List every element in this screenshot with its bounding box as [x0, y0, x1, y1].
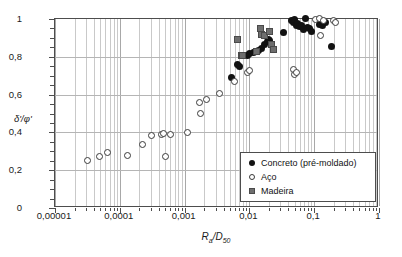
- y-axis-tick: [50, 85, 55, 86]
- y-axis-tick: [50, 114, 55, 115]
- gridline-vertical: [94, 19, 95, 206]
- x-axis-tick: [230, 208, 231, 211]
- y-axis-tick-label: 0,6: [9, 88, 22, 99]
- gridline-vertical: [110, 19, 111, 206]
- legend-item-label: Aço: [261, 172, 277, 182]
- x-axis-tick-label: 0,00001: [37, 210, 71, 221]
- gridline-vertical: [117, 19, 118, 206]
- x-axis-tick: [373, 208, 374, 211]
- legend-item-label: Concreto (pré-moldado): [261, 158, 357, 168]
- data-point: [162, 153, 169, 160]
- y-axis-title: δ'/φ': [14, 113, 32, 124]
- x-axis-tick: [353, 208, 354, 211]
- y-axis-tick: [50, 104, 55, 105]
- legend-marker-icon: [246, 160, 257, 166]
- data-point: [203, 96, 210, 103]
- gridline-vertical: [100, 19, 101, 206]
- x-axis-tick: [224, 208, 225, 211]
- gridline-vertical: [86, 19, 87, 206]
- gridline-vertical: [170, 19, 171, 206]
- x-axis-tick-label: 0,01: [239, 210, 258, 221]
- data-point: [293, 69, 300, 76]
- x-axis-tick: [280, 208, 281, 211]
- legend-item-1: Concreto (pré-moldado): [246, 156, 371, 170]
- y-axis-tick: [50, 161, 55, 162]
- gridline-vertical: [151, 19, 152, 206]
- y-axis-tick-label: 0,4: [9, 126, 22, 137]
- gridline-vertical: [175, 19, 176, 206]
- chart-legend: Concreto (pré-moldado)AçoMadeira: [240, 152, 376, 202]
- y-axis-tick: [50, 76, 55, 77]
- x-axis-tick: [304, 208, 305, 211]
- legend-marker-icon: [246, 174, 257, 180]
- x-axis-tick: [369, 208, 370, 211]
- gridline-horizontal: [55, 57, 377, 58]
- chart-figure: 0,000010,00010,0010,010,1100,20,40,60,81…: [0, 0, 402, 257]
- x-axis-tick: [295, 208, 296, 211]
- x-axis-title-sub-50: 50: [223, 237, 231, 244]
- x-axis-tick: [100, 208, 101, 211]
- x-axis-tick: [345, 208, 346, 211]
- x-axis-tick: [159, 208, 160, 211]
- data-point: [124, 152, 131, 159]
- y-axis-tick: [50, 123, 55, 124]
- gridline-vertical: [178, 19, 179, 206]
- y-axis-tick: [49, 57, 55, 58]
- x-axis-tick: [359, 208, 360, 211]
- gridline-vertical: [165, 19, 166, 206]
- data-point: [160, 130, 167, 137]
- data-point: [270, 46, 277, 53]
- gridline-vertical: [75, 19, 76, 206]
- gridline-vertical: [159, 19, 160, 206]
- y-axis-tick: [49, 208, 55, 209]
- y-axis-tick: [50, 47, 55, 48]
- x-axis-tick: [216, 208, 217, 211]
- gridline-vertical: [379, 19, 380, 206]
- x-axis-tick-label: 1: [375, 210, 380, 221]
- gridline-vertical: [182, 19, 183, 206]
- data-point: [253, 48, 260, 55]
- data-point: [328, 43, 335, 50]
- data-point: [302, 15, 309, 22]
- data-point: [231, 78, 238, 85]
- x-axis-tick: [139, 208, 140, 211]
- data-point: [280, 29, 287, 36]
- y-axis-tick: [50, 66, 55, 67]
- legend-item-3: Madeira: [246, 184, 371, 198]
- gridline-vertical: [139, 19, 140, 206]
- data-point: [234, 36, 241, 43]
- y-axis-tick: [50, 189, 55, 190]
- x-axis-tick-label: 0,1: [307, 210, 320, 221]
- gridline-vertical: [55, 19, 56, 206]
- gridline-vertical: [204, 19, 205, 206]
- x-axis-tick: [300, 208, 301, 211]
- legend-item-2: Aço: [246, 170, 371, 184]
- gridline-vertical: [120, 19, 121, 206]
- gridline-vertical: [216, 19, 217, 206]
- legend-item-label: Madeira: [261, 186, 294, 196]
- gridline-vertical: [230, 19, 231, 206]
- x-axis-tick: [151, 208, 152, 211]
- data-point: [239, 52, 246, 59]
- data-point: [167, 131, 174, 138]
- data-point: [139, 141, 146, 148]
- x-axis-tick: [235, 208, 236, 211]
- x-axis-tick: [75, 208, 76, 211]
- x-axis-tick-label: 0,001: [172, 210, 196, 221]
- x-axis-tick: [365, 208, 366, 211]
- x-axis-tick: [86, 208, 87, 211]
- gridline-vertical: [185, 19, 186, 206]
- y-axis-tick: [49, 170, 55, 171]
- gridline-horizontal: [55, 132, 377, 133]
- y-axis-tick: [49, 95, 55, 96]
- y-axis-tick: [49, 132, 55, 133]
- y-axis-tick-label: 1: [17, 13, 22, 24]
- data-point: [197, 110, 204, 117]
- y-axis-tick: [50, 180, 55, 181]
- gridline-vertical: [224, 19, 225, 206]
- x-axis-tick: [165, 208, 166, 211]
- x-axis-tick: [94, 208, 95, 211]
- x-axis-tick: [288, 208, 289, 211]
- x-axis-tick: [269, 208, 270, 211]
- x-axis-title: Ra/D50: [202, 231, 231, 244]
